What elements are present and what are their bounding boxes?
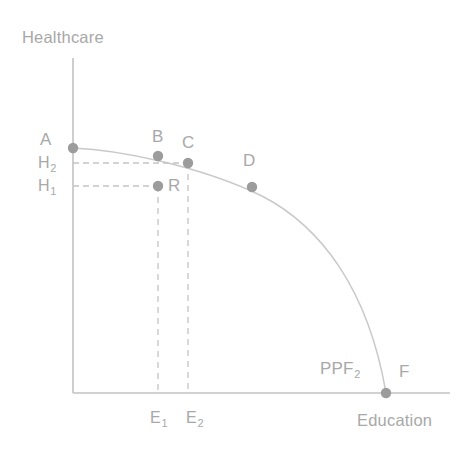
point-label-c: C bbox=[182, 134, 194, 151]
data-point-d bbox=[247, 182, 257, 192]
x-tick-label-e2: E2 bbox=[186, 410, 203, 426]
curve-label-base: PPF bbox=[320, 359, 354, 378]
x-tick-e1-base: E bbox=[150, 409, 161, 426]
curve-label-ppf2: PPF2 bbox=[320, 360, 360, 377]
y-tick-h2-base: H bbox=[38, 154, 50, 171]
x-tick-e1-subscript: 1 bbox=[161, 417, 167, 429]
x-tick-label-e1: E1 bbox=[150, 410, 167, 426]
x-tick-e2-subscript: 2 bbox=[197, 417, 203, 429]
data-point-f bbox=[381, 388, 391, 398]
y-axis-title: Healthcare bbox=[22, 29, 104, 46]
ppf-curve bbox=[73, 148, 386, 393]
y-tick-h1-subscript: 1 bbox=[50, 185, 56, 197]
ppf-diagram: Healthcare Education A B C D R F PPF2 H2… bbox=[0, 0, 476, 455]
y-tick-label-h1: H1 bbox=[38, 178, 56, 194]
data-point-a bbox=[68, 143, 78, 153]
data-point-r bbox=[153, 181, 163, 191]
ppf-plot-canvas bbox=[0, 0, 476, 455]
point-label-r: R bbox=[168, 177, 180, 194]
y-tick-label-h2: H2 bbox=[38, 155, 56, 171]
point-label-b: B bbox=[152, 128, 164, 145]
curve-label-subscript: 2 bbox=[354, 368, 360, 380]
x-tick-e2-base: E bbox=[186, 409, 197, 426]
x-axis-title: Education bbox=[357, 412, 432, 429]
data-point-b bbox=[153, 151, 163, 161]
data-point-c bbox=[183, 158, 193, 168]
point-label-d: D bbox=[243, 152, 255, 169]
y-tick-h1-base: H bbox=[38, 177, 50, 194]
point-label-f: F bbox=[399, 363, 410, 380]
point-label-a: A bbox=[40, 131, 52, 148]
y-tick-h2-subscript: 2 bbox=[50, 162, 56, 174]
